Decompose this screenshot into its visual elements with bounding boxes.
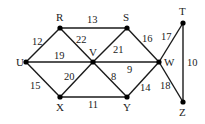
node-label: S <box>123 11 129 23</box>
node-label: U <box>16 56 24 68</box>
weighted-graph-diagram: 1219151322201121981614171810 URVXSWYTZ <box>0 0 205 124</box>
edge-weight-label: 11 <box>88 99 98 110</box>
node-label: Z <box>179 106 186 118</box>
node-label: Y <box>123 101 131 113</box>
node-label: R <box>56 11 64 23</box>
node-label: X <box>56 101 64 113</box>
edge-weight-label: 16 <box>142 33 153 44</box>
edge-weight-label: 13 <box>87 14 98 25</box>
node-y <box>124 94 129 99</box>
edge-weight-label: 17 <box>161 31 172 42</box>
edge-weight-label: 21 <box>113 44 124 55</box>
node-label: V <box>89 46 97 58</box>
edge-v-y <box>93 62 127 97</box>
edge-weight-label: 15 <box>30 80 41 91</box>
edge-weight-label: 22 <box>76 34 87 45</box>
edge-weight-label: 19 <box>54 50 65 61</box>
node-label: T <box>179 5 186 17</box>
edge-weight-label: 8 <box>111 71 116 82</box>
edge-weight-label: 9 <box>127 64 132 75</box>
node-s <box>124 25 129 30</box>
node-z <box>180 99 185 104</box>
node-t <box>180 20 185 25</box>
edge-weight-label: 10 <box>187 57 198 68</box>
node-v <box>90 59 95 64</box>
edge-weight-label: 20 <box>64 71 75 82</box>
edge-weight-label: 12 <box>32 36 43 47</box>
node-w <box>156 59 161 64</box>
node-r <box>57 25 62 30</box>
edge-weight-label: 18 <box>160 80 171 91</box>
node-x <box>57 94 62 99</box>
node-u <box>23 59 28 64</box>
edge-weight-label: 14 <box>140 82 151 93</box>
node-label: W <box>164 56 175 68</box>
